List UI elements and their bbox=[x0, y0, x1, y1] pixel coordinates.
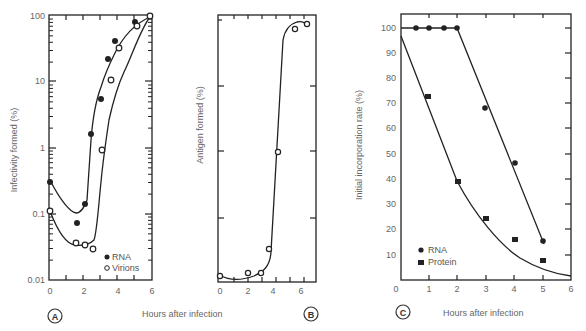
c-ytick-40: 40 bbox=[386, 174, 396, 184]
c-xtick-4: 4 bbox=[511, 284, 516, 294]
b-xtick-2: 2 bbox=[245, 286, 250, 296]
a-virions-curve bbox=[50, 17, 150, 245]
legend-c-protein-marker bbox=[418, 260, 424, 265]
c-xlabel: Hours after infection bbox=[443, 308, 524, 318]
legend-a-rna: RNA bbox=[112, 252, 131, 262]
b-xtick-6: 6 bbox=[298, 286, 303, 296]
c-ylabel: Initial incorporation rate (%) bbox=[354, 90, 364, 200]
c-ytick-30: 30 bbox=[386, 199, 396, 209]
a-ytick-10: 10 bbox=[35, 76, 45, 86]
panel-c: 100 90 80 70 60 50 40 30 20 10 0 1 2 3 4… bbox=[354, 14, 574, 319]
a-ytick-0.1: 0.1 bbox=[32, 209, 45, 219]
ab-xlabel: Hours after infection bbox=[142, 309, 223, 319]
c-ytick-100: 100 bbox=[381, 23, 396, 33]
panel-a-letter: A bbox=[52, 312, 59, 322]
figure: 100 10 1 0.1 0.01 0 2 4 6 Infectivity fo… bbox=[0, 0, 586, 331]
c-xtick-1: 1 bbox=[426, 284, 431, 294]
a-ytick-0.01: 0.01 bbox=[27, 275, 45, 285]
c-xtick-5: 5 bbox=[540, 284, 545, 294]
b-xtick-0: 0 bbox=[217, 286, 222, 296]
a-ytick-1: 1 bbox=[40, 143, 45, 153]
c-rna-line bbox=[401, 28, 544, 244]
c-xtick-6: 6 bbox=[568, 284, 573, 294]
legend-c-rna: RNA bbox=[428, 245, 447, 255]
c-ytick-70: 70 bbox=[386, 98, 396, 108]
panel-c-letter: C bbox=[400, 308, 407, 318]
legend-c-rna-marker bbox=[418, 247, 423, 252]
legend-a-rna-marker bbox=[105, 255, 110, 260]
c-ytick-20: 20 bbox=[386, 224, 396, 234]
b-xtick-4: 4 bbox=[270, 286, 275, 296]
legend-c-protein: Protein bbox=[428, 257, 457, 267]
legend-a-virions: Virions bbox=[112, 263, 140, 273]
a-xtick-6: 6 bbox=[149, 286, 154, 296]
legend-a-virions-marker bbox=[105, 266, 110, 271]
c-ytick-50: 50 bbox=[386, 149, 396, 159]
panel-b-frame bbox=[218, 15, 316, 282]
c-ytick-60: 60 bbox=[386, 123, 396, 133]
a-xtick-4: 4 bbox=[115, 286, 120, 296]
c-xtick-2: 2 bbox=[454, 284, 459, 294]
c-xtick-0: 0 bbox=[393, 284, 398, 294]
c-ytick-10: 10 bbox=[386, 250, 396, 260]
c-rna-points bbox=[413, 25, 546, 244]
c-ytick-90: 90 bbox=[386, 48, 396, 58]
panel-b-letter: B bbox=[308, 310, 315, 320]
c-ytick-80: 80 bbox=[386, 73, 396, 83]
a-xtick-2: 2 bbox=[81, 286, 86, 296]
a-ytick-100: 100 bbox=[30, 11, 45, 21]
panel-a: 100 10 1 0.1 0.01 0 2 4 6 Infectivity fo… bbox=[9, 11, 155, 323]
a-xtick-0: 0 bbox=[47, 286, 52, 296]
b-antigen-curve bbox=[220, 22, 306, 280]
b-ylabel: Antigen formed (%) bbox=[195, 86, 205, 164]
c-xtick-3: 3 bbox=[483, 284, 488, 294]
a-ylabel: Infectivity formed (%) bbox=[9, 108, 19, 193]
a-virions-points bbox=[47, 13, 153, 252]
panel-b: 0 2 4 6 Antigen formed (%) Hours after i… bbox=[142, 15, 318, 321]
b-antigen-points bbox=[217, 21, 309, 278]
c-protein-points bbox=[425, 94, 546, 263]
